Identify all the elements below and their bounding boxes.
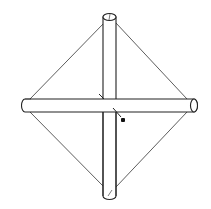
knot — [121, 118, 125, 122]
diagram-svg — [0, 0, 211, 209]
kite-frame-diagram: kite frame — [0, 0, 211, 209]
horizontal-stick — [22, 99, 198, 112]
